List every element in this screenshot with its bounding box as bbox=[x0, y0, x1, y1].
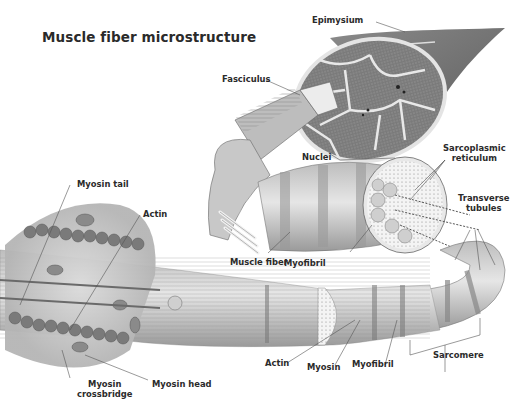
label-transverse-tubules-line2: tubules bbox=[458, 203, 509, 213]
label-sarcoplasmic-reticulum: Sarcoplasmic reticulum bbox=[443, 143, 506, 163]
label-myofibril-upper: Myofibril bbox=[284, 258, 326, 268]
label-myofibril-lower: Myofibril bbox=[352, 359, 394, 369]
label-nuclei: Nuclei bbox=[302, 152, 331, 162]
label-myosin-crossbridge: Myosin crossbridge bbox=[77, 379, 132, 399]
label-myosin-head: Myosin head bbox=[152, 379, 212, 389]
label-sarcomere: Sarcomere bbox=[433, 350, 484, 360]
label-myosin-tail: Myosin tail bbox=[77, 179, 129, 189]
label-transverse-tubules-line1: Transverse bbox=[458, 193, 509, 203]
muscle-illustration bbox=[0, 0, 524, 410]
muscle-fiber bbox=[258, 157, 480, 255]
label-muscle-fiber: Muscle fiber bbox=[230, 257, 288, 267]
actin-myosin-zoom-circle bbox=[0, 203, 160, 367]
label-sarcoplasmic-reticulum-line1: Sarcoplasmic bbox=[443, 143, 506, 153]
label-sarcoplasmic-reticulum-line2: reticulum bbox=[443, 153, 506, 163]
label-epimysium: Epimysium bbox=[312, 15, 363, 25]
label-myosin-crossbridge-line2: crossbridge bbox=[77, 389, 132, 399]
label-myosin: Myosin bbox=[307, 362, 340, 372]
label-fasciculus: Fasciculus bbox=[222, 74, 270, 84]
label-actin-lower: Actin bbox=[265, 358, 289, 368]
label-transverse-tubules: Transverse tubules bbox=[458, 193, 509, 213]
label-actin-upper: Actin bbox=[143, 209, 167, 219]
label-myosin-crossbridge-line1: Myosin bbox=[77, 379, 132, 389]
